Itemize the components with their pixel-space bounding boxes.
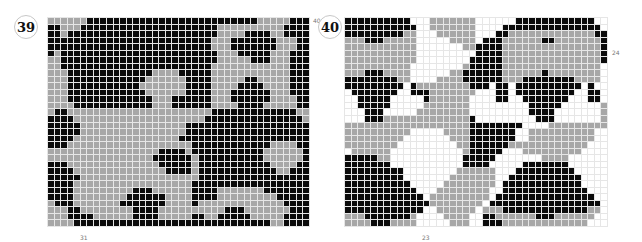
grid-cell: [68, 162, 74, 168]
grid-cell: [588, 25, 594, 31]
grid-cell: [417, 77, 423, 83]
grid-cell: [238, 51, 244, 57]
grid-cell: [172, 168, 178, 174]
grid-cell: [424, 38, 430, 44]
grid-cell: [284, 116, 290, 122]
grid-cell: [437, 44, 443, 50]
grid-cell: [562, 38, 568, 44]
grid-cell: [205, 214, 211, 220]
grid-cell: [245, 207, 251, 213]
grid-cell: [457, 136, 463, 142]
grid-cell: [562, 77, 568, 83]
grid-cell: [503, 103, 509, 109]
grid-cell: [417, 168, 423, 174]
grid-cell: [61, 194, 67, 200]
grid-cell: [569, 103, 575, 109]
grid-cell: [476, 136, 482, 142]
grid-cell: [562, 175, 568, 181]
grid-cell: [245, 201, 251, 207]
grid-cell: [430, 162, 436, 168]
grid-cell: [277, 155, 283, 161]
grid-cell: [172, 96, 178, 102]
grid-cell: [444, 18, 450, 24]
grid-cell: [444, 162, 450, 168]
grid-cell: [100, 188, 106, 194]
grid-cell: [601, 129, 607, 135]
grid-cell: [166, 129, 172, 135]
grid-cell: [463, 194, 469, 200]
grid-cell: [192, 51, 198, 57]
grid-cell: [258, 181, 264, 187]
grid-cell: [199, 162, 205, 168]
grid-cell: [199, 168, 205, 174]
grid-cell: [290, 194, 296, 200]
grid-cell: [100, 201, 106, 207]
grid-cell: [290, 31, 296, 37]
grid-cell: [218, 116, 224, 122]
grid-cell: [496, 194, 502, 200]
grid-cell: [55, 162, 61, 168]
grid-cell: [378, 90, 384, 96]
grid-cell: [238, 103, 244, 109]
grid-cell: [68, 57, 74, 63]
grid-cell: [107, 77, 113, 83]
grid-cell: [100, 220, 106, 226]
grid-cell: [179, 116, 185, 122]
grid-cell: [509, 103, 515, 109]
grid-cell: [264, 57, 270, 63]
grid-cell: [290, 44, 296, 50]
grid-cell: [470, 207, 476, 213]
grid-cell: [562, 201, 568, 207]
grid-cell: [297, 44, 303, 50]
grid-cell: [371, 168, 377, 174]
grid-cell: [74, 96, 80, 102]
grid-cell: [450, 83, 456, 89]
grid-cell: [391, 18, 397, 24]
grid-cell: [404, 25, 410, 31]
grid-cell: [61, 136, 67, 142]
grid-cell: [114, 57, 120, 63]
grid-cell: [205, 83, 211, 89]
grid-cell: [582, 129, 588, 135]
grid-cell: [529, 214, 535, 220]
grid-cell: [87, 220, 93, 226]
grid-cell: [212, 90, 218, 96]
grid-cell: [595, 201, 601, 207]
grid-cell: [140, 116, 146, 122]
grid-cell: [107, 116, 113, 122]
grid-cell: [595, 168, 601, 174]
grid-cell: [218, 18, 224, 24]
grid-cell: [271, 31, 277, 37]
grid-cell: [120, 175, 126, 181]
grid-cell: [483, 207, 489, 213]
grid-cell: [575, 123, 581, 129]
grid-cell: [345, 175, 351, 181]
grid-cell: [87, 18, 93, 24]
grid-cell: [264, 136, 270, 142]
grid-cell: [437, 109, 443, 115]
grid-cell: [127, 194, 133, 200]
grid-cell: [107, 207, 113, 213]
grid-cell: [179, 220, 185, 226]
grid-cell: [159, 18, 165, 24]
grid-cell: [430, 207, 436, 213]
grid-cell: [186, 38, 192, 44]
grid-cell: [205, 116, 211, 122]
grid-cell: [277, 162, 283, 168]
grid-cell: [133, 129, 139, 135]
grid-cell: [457, 201, 463, 207]
grid-cell: [87, 175, 93, 181]
grid-cell: [542, 31, 548, 37]
grid-cell: [192, 116, 198, 122]
grid-cell: [179, 142, 185, 148]
grid-cell: [437, 155, 443, 161]
grid-cell: [303, 57, 309, 63]
grid-cell: [264, 194, 270, 200]
grid-cell: [159, 129, 165, 135]
grid-cell: [179, 136, 185, 142]
grid-cell: [424, 214, 430, 220]
grid-cell: [192, 136, 198, 142]
grid-cell: [358, 90, 364, 96]
grid-cell: [457, 90, 463, 96]
grid-cell: [199, 18, 205, 24]
